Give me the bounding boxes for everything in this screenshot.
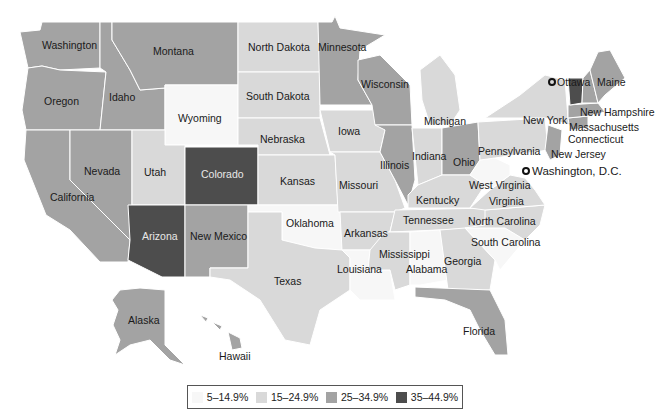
- label-south-dakota: South Dakota: [246, 90, 310, 102]
- label-south-carolina: South Carolina: [471, 236, 541, 248]
- label-west-virginia: West Virginia: [469, 179, 531, 191]
- legend-item-1: 5–14.9%: [192, 391, 248, 403]
- label-mississippi: Mississippi: [379, 248, 430, 260]
- label-georgia: Georgia: [444, 255, 482, 267]
- label-new-york: New York: [523, 114, 568, 126]
- label-nebraska: Nebraska: [260, 133, 305, 145]
- label-new-hampshire: New Hampshire: [580, 106, 655, 118]
- label-colorado: Colorado: [201, 168, 244, 180]
- legend-item-3: 25–34.9%: [326, 391, 388, 403]
- label-idaho: Idaho: [109, 91, 135, 103]
- label-tennessee: Tennessee: [403, 214, 454, 226]
- label-utah: Utah: [144, 166, 166, 178]
- legend-item-2: 15–24.9%: [256, 391, 318, 403]
- capital-star-icon: [523, 168, 529, 174]
- label-iowa: Iowa: [338, 125, 360, 137]
- label-ottawa: Ottawa: [557, 76, 590, 88]
- legend-item-4: 35–44.9%: [396, 391, 458, 403]
- legend-label: 15–24.9%: [271, 391, 318, 403]
- state-alaska[interactable]: [112, 288, 185, 365]
- legend-label: 25–34.9%: [341, 391, 388, 403]
- legend-label: 35–44.9%: [411, 391, 458, 403]
- label-ohio: Ohio: [453, 156, 475, 168]
- label-pennsylvania: Pennsylvania: [478, 145, 541, 157]
- label-louisiana: Louisiana: [337, 263, 382, 275]
- label-north-carolina: North Carolina: [468, 215, 536, 227]
- label-texas: Texas: [274, 275, 301, 287]
- label-oregon: Oregon: [44, 95, 79, 107]
- label-new-mexico: New Mexico: [190, 230, 247, 242]
- legend-swatch: [256, 392, 267, 403]
- label-illinois: Illinois: [380, 159, 409, 171]
- label-indiana: Indiana: [412, 150, 447, 162]
- label-alaska: Alaska: [128, 314, 160, 326]
- label-new-jersey: New Jersey: [551, 148, 607, 160]
- label-oklahoma: Oklahoma: [286, 217, 334, 229]
- label-minnesota: Minnesota: [318, 41, 367, 53]
- legend-label: 5–14.9%: [207, 391, 248, 403]
- label-wisconsin: Wisconsin: [361, 78, 409, 90]
- label-wyoming: Wyoming: [178, 112, 222, 124]
- label-kentucky: Kentucky: [416, 194, 460, 206]
- label-massachusetts: Massachusetts: [569, 121, 639, 133]
- label-washington-dc: Washington, D.C.: [532, 165, 622, 177]
- label-virginia: Virginia: [489, 195, 524, 207]
- label-nevada: Nevada: [84, 165, 120, 177]
- legend-swatch: [326, 392, 337, 403]
- label-maine: Maine: [597, 76, 626, 88]
- legend-swatch: [396, 392, 407, 403]
- label-arkansas: Arkansas: [344, 227, 388, 239]
- label-alabama: Alabama: [406, 263, 448, 275]
- legend-swatch: [192, 392, 203, 403]
- label-florida: Florida: [463, 325, 495, 337]
- label-arizona: Arizona: [142, 230, 178, 242]
- label-kansas: Kansas: [280, 175, 315, 187]
- label-connecticut: Connecticut: [568, 133, 624, 145]
- state-hawaii[interactable]: [200, 315, 242, 350]
- label-washington: Washington: [42, 39, 97, 51]
- label-california: California: [50, 191, 95, 203]
- label-michigan: Michigan: [424, 115, 466, 127]
- label-montana: Montana: [153, 45, 194, 57]
- map-legend: 5–14.9% 15–24.9% 25–34.9% 35–44.9%: [187, 385, 463, 409]
- label-missouri: Missouri: [339, 179, 378, 191]
- state-florida[interactable]: [415, 287, 508, 355]
- label-north-dakota: North Dakota: [248, 41, 310, 53]
- label-hawaii: Hawaii: [219, 350, 251, 362]
- us-choropleth-map: Washington Oregon California Idaho Nevad…: [0, 0, 670, 370]
